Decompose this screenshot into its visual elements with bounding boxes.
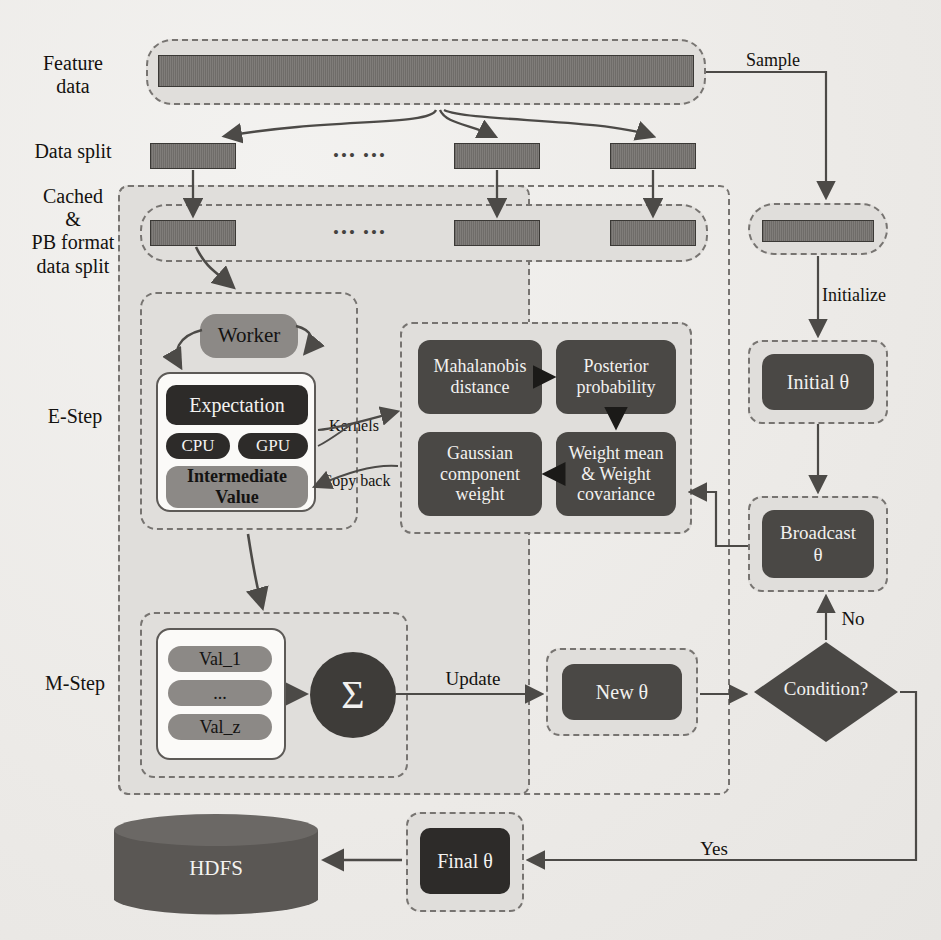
stage-label-feature-data: Feature data bbox=[18, 52, 128, 98]
cpu-box[interactable]: CPU bbox=[166, 433, 230, 459]
kernel-box-weight-mean-covariance[interactable]: Weight mean & Weight covariance bbox=[556, 432, 676, 516]
data-split-ellipsis: ••• ••• bbox=[300, 146, 420, 166]
stage-label-e-step: E-Step bbox=[20, 405, 130, 428]
condition-diamond-label: Condition? bbox=[752, 678, 900, 700]
edge-label-sample: Sample bbox=[733, 50, 813, 71]
stage-label-m-step: M-Step bbox=[20, 672, 130, 695]
worker-node[interactable]: Worker bbox=[200, 314, 298, 358]
kernel-box-gaussian-component-weight[interactable]: Gaussian component weight bbox=[418, 432, 542, 516]
expectation-box[interactable]: Expectation bbox=[166, 385, 308, 425]
sample-data-bar bbox=[762, 220, 874, 242]
data-split-block-3 bbox=[610, 143, 696, 169]
gpu-box[interactable]: GPU bbox=[238, 433, 308, 459]
broadcast-theta-box[interactable]: Broadcast θ bbox=[762, 510, 874, 578]
intermediate-value-box[interactable]: Intermediate Value bbox=[166, 466, 308, 508]
cached-split-block-1 bbox=[150, 220, 236, 246]
new-theta-box[interactable]: New θ bbox=[562, 664, 682, 720]
edge-label-update: Update bbox=[430, 668, 516, 690]
feature-data-bar bbox=[158, 55, 694, 87]
data-split-block-2 bbox=[454, 143, 540, 169]
initial-theta-box[interactable]: Initial θ bbox=[762, 354, 874, 410]
cached-split-ellipsis: ••• ••• bbox=[300, 223, 420, 243]
edge-label-yes: Yes bbox=[690, 838, 738, 860]
cached-split-block-2 bbox=[454, 220, 540, 246]
mstep-value-val-dots: ... bbox=[168, 680, 272, 706]
final-theta-box[interactable]: Final θ bbox=[420, 828, 510, 894]
kernel-box-mahalanobis-distance[interactable]: Mahalanobis distance bbox=[418, 340, 542, 414]
edge-label-no: No bbox=[832, 608, 874, 630]
data-split-block-1 bbox=[150, 143, 236, 169]
hdfs-label: HDFS bbox=[112, 856, 320, 881]
mstep-value-val-z[interactable]: Val_z bbox=[168, 714, 272, 740]
mstep-value-val-1[interactable]: Val_1 bbox=[168, 646, 272, 672]
edge-label-initialize: Initialize bbox=[822, 285, 914, 306]
stage-label-data-split: Data split bbox=[10, 140, 136, 163]
edge-label-copy-back: Copy back bbox=[314, 472, 398, 491]
diagram-canvas: Feature data Data split Cached & PB form… bbox=[0, 0, 941, 940]
cached-split-block-3 bbox=[610, 220, 696, 246]
kernel-box-posterior-probability[interactable]: Posterior probability bbox=[556, 340, 676, 414]
sigma-aggregator[interactable]: Σ bbox=[310, 652, 396, 738]
hdfs-cylinder[interactable]: HDFS bbox=[112, 812, 320, 918]
edge-label-kernels: Kernels bbox=[318, 417, 390, 436]
condition-diamond[interactable]: Condition? bbox=[752, 640, 900, 744]
